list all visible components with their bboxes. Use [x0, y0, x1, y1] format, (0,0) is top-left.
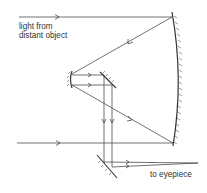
source-label-line1: light from [19, 22, 53, 31]
secondary-mirror [71, 71, 73, 88]
telescope-diagram: light from distant object to eyepiece [0, 0, 207, 193]
reflected-ray-top [72, 17, 172, 74]
output-ray-lower [112, 163, 198, 167]
source-label-line2: distant object [19, 31, 67, 40]
primary-mirror [172, 12, 178, 146]
output-ray-upper [104, 162, 198, 163]
reflected-ray-bottom [72, 85, 173, 143]
output-label: to eyepiece [150, 170, 192, 179]
lower-mirror [97, 155, 117, 178]
diagonal-mirror [100, 72, 116, 88]
secondary-mirror-hatching [67, 72, 70, 86]
